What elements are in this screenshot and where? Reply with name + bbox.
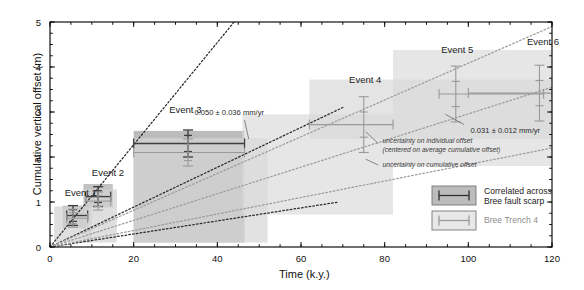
event-label-5: Event 5 [441,44,473,55]
legend-label-correlated-line1: Correlated across [484,186,552,196]
x-tick-label-0: 0 [47,253,52,264]
y-tick-label-5: 5 [36,17,41,28]
legend-label-correlated: Correlated across Bree fault scarp [484,186,552,207]
legend-entry-0[interactable] [432,186,476,205]
uncertainty-cumulative-note: uncertainty on cumulative offset [382,161,476,169]
figure-root: Event 1 Event 2 Event 3 Event 4 Event 5 … [0,0,584,290]
x-tick-label-100: 100 [460,253,476,264]
event-label-4: Event 4 [349,74,381,85]
x-tick-label-40: 40 [212,253,223,264]
uncertainty-individual-note: uncertainty on individual offset (center… [382,137,500,153]
x-axis-title: Time (k.y.) [279,268,330,280]
y-tick-label-2: 2 [36,152,41,163]
y-tick-label-1: 1 [36,197,41,208]
uncertainty-individual-line2: (centered on average cumulative offset) [382,146,500,154]
event-label-6: Event 6 [527,36,559,47]
x-tick-label-60: 60 [296,253,307,264]
x-tick-label-120: 120 [544,253,560,264]
legend-label-correlated-line2: Bree fault scarp [484,196,552,206]
event-label-2: Event 2 [92,167,124,178]
legend-label-trench: Bree Trench 4 [484,215,538,225]
slip-rate-annotation-trench: 0.031 ± 0.012 mm/yr [471,126,541,135]
x-tick-label-80: 80 [379,253,390,264]
y-tick-label-3: 3 [36,107,41,118]
event-label-1: Event 1 [65,187,97,198]
x-tick-label-20: 20 [128,253,139,264]
y-tick-label-4: 4 [36,62,41,73]
y-tick-label-0: 0 [36,242,41,253]
slip-rate-annotation-fault-scarp: 0.050 ± 0.036 mm/yr [194,108,264,117]
y-axis-title: Cumulative vertical offset (m) [31,24,43,224]
uncertainty-individual-line1: uncertainty on individual offset [382,137,500,145]
legend-entry-1[interactable] [432,211,476,230]
